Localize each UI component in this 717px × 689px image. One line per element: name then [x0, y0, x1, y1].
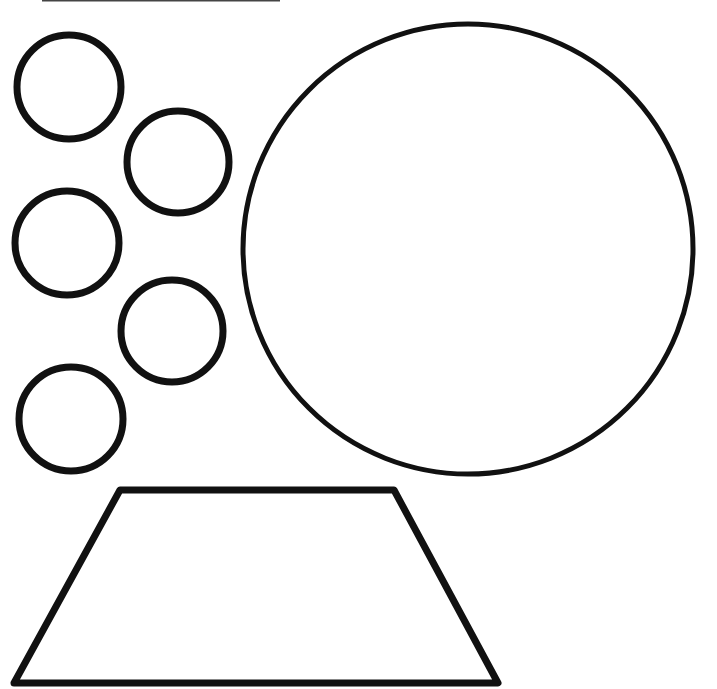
large-circle [243, 24, 693, 474]
small-circle-2 [127, 111, 229, 213]
small-circle-1 [17, 35, 121, 139]
small-circle-5 [19, 367, 123, 471]
trapezoid-shape [14, 490, 498, 683]
small-circles-group [15, 35, 229, 471]
shapes-canvas [0, 0, 717, 689]
small-circle-3 [15, 191, 119, 295]
small-circle-4 [121, 280, 223, 382]
